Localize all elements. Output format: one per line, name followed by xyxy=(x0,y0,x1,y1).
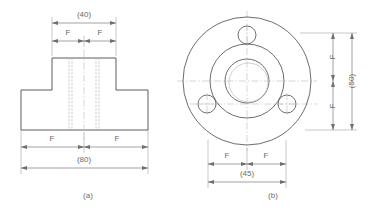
dim-plan-bottom-left-half: F xyxy=(208,151,247,164)
dim-front-top-overall: (40) xyxy=(52,10,116,23)
dim-label-f-front-top-right: F xyxy=(98,28,103,37)
front-extension-lines xyxy=(21,17,148,174)
orthographic-drawing-svg: (40) F F F F xyxy=(0,0,370,216)
dim-plan-vertical-upper-half: F xyxy=(328,33,337,81)
dim-front-bottom-overall: (80) xyxy=(21,155,148,168)
caption-view-b: (b) xyxy=(268,191,278,200)
dim-front-top-right-half: F xyxy=(84,28,116,41)
bore-inner-circle xyxy=(229,63,268,102)
dim-label-f-front-bottom-right: F xyxy=(115,134,120,143)
dim-plan-vertical-lower-half: F xyxy=(328,81,337,130)
plan-centerlines xyxy=(177,11,317,151)
caption-view-a: (a) xyxy=(83,191,93,200)
dim-plan-bottom-right-half: F xyxy=(247,151,286,164)
dim-label-40: (40) xyxy=(77,10,92,19)
dim-label-80: (80) xyxy=(77,155,92,164)
view-plan-flange: F F (50) F xyxy=(177,11,357,200)
dim-label-45: (45) xyxy=(240,169,255,178)
dim-front-top-left-half: F xyxy=(52,28,84,41)
technical-drawing-canvas: (40) F F F F xyxy=(0,0,370,216)
dim-front-bottom-right-half: F xyxy=(84,134,148,147)
dim-label-f-front-bottom-left: F xyxy=(50,134,55,143)
front-profile-outline xyxy=(21,58,148,130)
dim-label-f-plan-lower: F xyxy=(328,103,337,108)
dim-label-f-front-top-left: F xyxy=(66,28,71,37)
dim-label-f-plan-bottom-right: F xyxy=(264,151,269,160)
dim-label-f-plan-upper: F xyxy=(328,54,337,59)
view-front-elevation: (40) F F F F xyxy=(21,10,148,200)
dim-plan-vertical-overall: (50) xyxy=(347,33,356,130)
dim-label-f-plan-bottom-left: F xyxy=(225,151,230,160)
dim-plan-bottom-overall: (45) xyxy=(208,169,286,182)
dim-label-50: (50) xyxy=(347,74,356,89)
dim-front-bottom-left-half: F xyxy=(21,134,84,147)
